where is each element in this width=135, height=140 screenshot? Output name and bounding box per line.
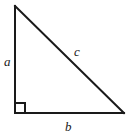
side-label-b: b <box>65 120 72 133</box>
hypotenuse-c-line <box>15 6 124 113</box>
side-label-a: a <box>4 55 11 68</box>
right-angle-square-icon <box>15 103 25 113</box>
side-label-c: c <box>74 45 80 58</box>
right-triangle-figure: a c b <box>0 0 135 140</box>
